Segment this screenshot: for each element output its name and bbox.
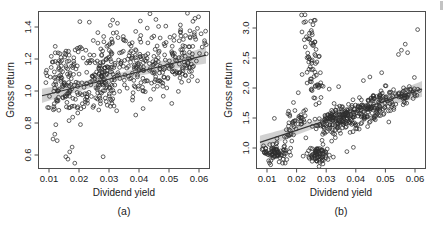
x-axis-ticks-b <box>267 169 415 173</box>
x-tick-label-a-0: 0.01 <box>40 173 59 184</box>
x-tick-label-b-3: 0.04 <box>347 173 366 184</box>
scatter-plot-b: 0.01 0.02 0.03 0.04 0.05 0.06 1.0 1.5 2.… <box>222 0 444 230</box>
y-tick-label-b-1: 1.5 <box>240 111 251 124</box>
y-tick-label-a-3: 1.2 <box>22 52 33 65</box>
panel-caption-b: (b) <box>335 205 348 217</box>
x-tick-label-b-4: 0.05 <box>376 173 395 184</box>
x-tick-label-a-1: 0.02 <box>70 173 89 184</box>
x-axis-label-b: Dividend yield <box>310 187 372 198</box>
x-tick-label-b-5: 0.06 <box>406 173 425 184</box>
x-tick-label-b-1: 0.02 <box>287 173 306 184</box>
y-tick-label-b-0: 1.0 <box>240 141 251 154</box>
y-axis-label-a: Gross return <box>5 62 16 118</box>
scatter-plot-a: 0.01 0.02 0.03 0.04 0.05 0.06 0.6 0.8 1.… <box>0 0 222 230</box>
figure-container: 0.01 0.02 0.03 0.04 0.05 0.06 0.6 0.8 1.… <box>0 0 445 230</box>
data-points-b <box>260 13 421 168</box>
y-axis-label-b: Gross return <box>223 62 234 118</box>
x-axis-label-a: Dividend yield <box>93 187 155 198</box>
x-tick-label-a-4: 0.05 <box>160 173 179 184</box>
y-tick-label-a-0: 0.6 <box>22 148 33 161</box>
y-tick-label-b-2: 2.0 <box>240 81 251 94</box>
y-axis-ticks-b <box>253 28 257 148</box>
y-tick-label-a-4: 1.4 <box>22 20 33 33</box>
y-tick-label-b-3: 2.5 <box>240 51 251 64</box>
x-tick-label-a-3: 0.04 <box>130 173 149 184</box>
y-axis-ticks-a <box>35 27 39 155</box>
y-tick-label-b-4: 3.0 <box>240 21 251 34</box>
y-tick-label-a-1: 0.8 <box>22 116 33 129</box>
x-axis-ticks-a <box>49 169 199 173</box>
x-tick-label-b-0: 0.01 <box>258 173 277 184</box>
x-tick-label-b-2: 0.03 <box>317 173 336 184</box>
page-edge-artifact <box>440 1 443 10</box>
chart-panel-a: 0.01 0.02 0.03 0.04 0.05 0.06 0.6 0.8 1.… <box>0 0 222 230</box>
y-tick-label-a-2: 1.0 <box>22 84 33 97</box>
x-tick-label-a-2: 0.03 <box>100 173 119 184</box>
panel-caption-a: (a) <box>118 205 131 217</box>
x-tick-label-a-5: 0.06 <box>190 173 209 184</box>
regression-line-b <box>260 89 422 142</box>
chart-panel-b: 0.01 0.02 0.03 0.04 0.05 0.06 1.0 1.5 2.… <box>222 0 444 230</box>
